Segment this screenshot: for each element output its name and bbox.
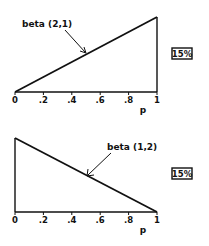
- tick-label: .6: [96, 215, 105, 225]
- tick-label: .4: [67, 95, 76, 105]
- arrow-icon: [65, 30, 85, 52]
- arrow-icon: [88, 153, 111, 175]
- x-axis-label: p: [140, 105, 147, 115]
- percent-badge-text: 15%: [172, 169, 193, 179]
- tick-label: 0: [12, 95, 18, 105]
- bottom-chart: 0 .2 .4 .6 .8 1 p beta (1,2) 15%: [12, 138, 193, 235]
- x-axis-label: p: [140, 225, 147, 235]
- curve-label: beta (2,1): [22, 19, 72, 29]
- top-chart: 0 .2 .4 .6 .8 1 p beta (2,1) 15%: [12, 17, 193, 115]
- curve-label: beta (1,2): [107, 142, 157, 152]
- tick-label: .8: [124, 95, 133, 105]
- beta-distributions-figure: 0 .2 .4 .6 .8 1 p beta (2,1) 15% 0 .2 .4…: [0, 0, 209, 246]
- tick-label: .4: [67, 215, 76, 225]
- tick-label: .6: [96, 95, 105, 105]
- tick-label: .2: [39, 95, 48, 105]
- tick-label: 1: [154, 95, 160, 105]
- tick-label: .8: [124, 215, 133, 225]
- tick-label: .2: [39, 215, 48, 225]
- tick-label: 0: [12, 215, 18, 225]
- tick-label: 1: [154, 215, 160, 225]
- percent-badge-text: 15%: [172, 49, 193, 59]
